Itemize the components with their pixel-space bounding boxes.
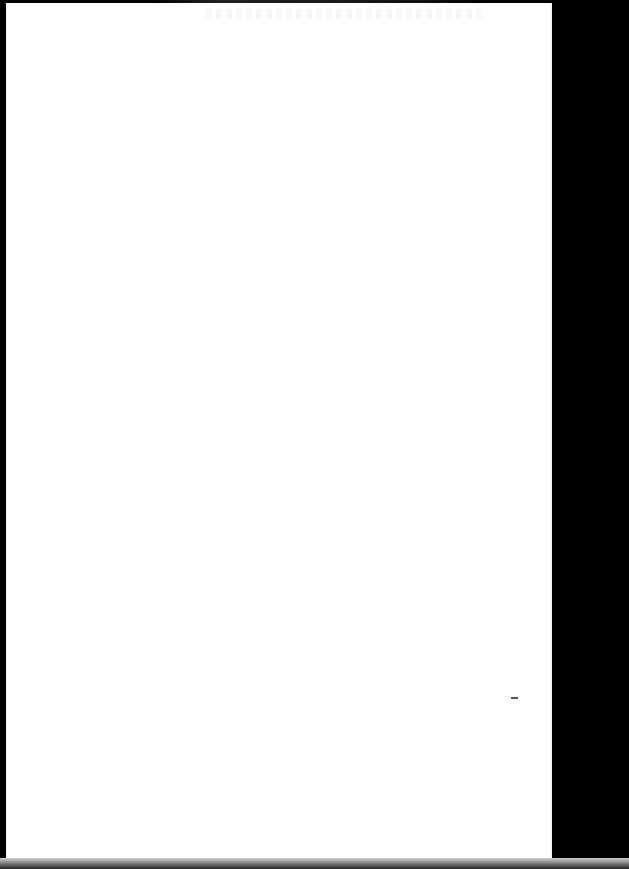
scan-shadow-top xyxy=(150,0,490,3)
bleed-through-text xyxy=(206,9,486,19)
scan-edge-bottom xyxy=(0,858,629,869)
stray-mark xyxy=(511,697,518,699)
blank-page xyxy=(6,3,552,863)
scan-background-right xyxy=(552,0,629,869)
